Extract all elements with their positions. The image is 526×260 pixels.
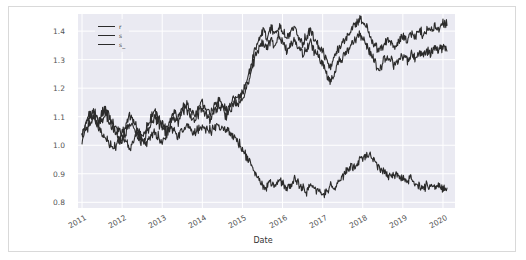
legend-label: r (119, 22, 121, 31)
chart-legend: rss_ (95, 19, 129, 52)
legend-swatch-icon (98, 26, 115, 27)
y-tick-label: 1.4 (53, 27, 65, 36)
legend-swatch-icon (98, 35, 115, 36)
y-tick-label: 1.3 (53, 55, 65, 64)
y-tick-label: 1.0 (53, 141, 65, 150)
legend-label: s_ (119, 40, 125, 49)
legend-item-s: s (98, 31, 125, 40)
legend-item-s_: s_ (98, 40, 125, 49)
y-tick-label: 1.1 (53, 112, 65, 121)
y-tick-label: 0.8 (53, 198, 65, 207)
y-tick-label: 0.9 (53, 169, 65, 178)
chart-figure: rss_ 0.80.91.01.11.21.31.4 2011201220132… (0, 0, 526, 260)
series-lines (78, 14, 455, 208)
plot-area: rss_ (78, 14, 455, 208)
x-axis-label: Date (0, 236, 526, 245)
legend-swatch-icon (98, 44, 115, 45)
legend-item-r: r (98, 22, 125, 31)
y-tick-label: 1.2 (53, 84, 65, 93)
legend-label: s (119, 31, 122, 40)
